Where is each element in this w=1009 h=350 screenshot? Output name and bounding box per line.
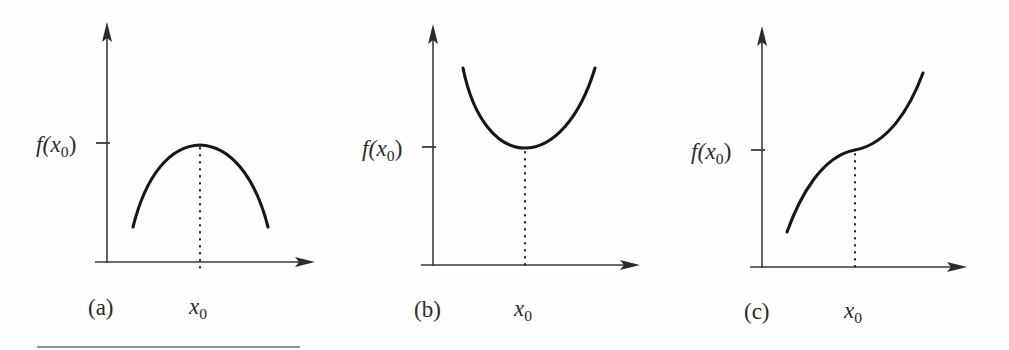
panel-b-x-label-head: x	[514, 296, 524, 321]
panel-c-graphics	[750, 26, 967, 272]
panel-b-letter: (b)	[414, 298, 441, 321]
panel-a-y-label-sub: 0	[61, 143, 69, 160]
panel-c-x-label-head: x	[844, 298, 854, 323]
panel-c-x-axis-label: x0	[844, 299, 862, 326]
panel-c-y-label-sub: 0	[716, 150, 724, 167]
panel-b-y-axis-label: f(x0)	[362, 137, 403, 164]
panel-a-letter: (a)	[88, 296, 114, 319]
panel-a-x-label-sub: 0	[199, 305, 207, 322]
panel-a-curve	[133, 145, 268, 227]
panel-c-y-label-tail: )	[724, 139, 732, 164]
panel-a-graphics	[95, 22, 315, 268]
panel-c-curve	[787, 73, 923, 232]
panel-a-x-axis-label: x0	[189, 295, 207, 322]
panel-b-y-label-tail: )	[395, 136, 403, 161]
panel-c-y-axis-label: f(x0)	[691, 140, 732, 167]
panel-a-y-label-tail: )	[69, 132, 77, 157]
figure-canvas	[0, 0, 1009, 350]
panel-a-x-label-head: x	[189, 294, 199, 319]
panel-b-x-axis-label: x0	[514, 297, 532, 324]
panel-c-letter: (c)	[744, 300, 770, 323]
panel-b-y-label-sub: 0	[387, 147, 395, 164]
panel-b-curve	[463, 68, 595, 148]
panel-c-x-label-sub: 0	[854, 309, 862, 326]
panel-c-y-label-head: f(x	[691, 139, 716, 164]
panel-b-graphics	[421, 24, 640, 270]
panel-a-y-axis-label: f(x0)	[36, 133, 77, 160]
figure-root: f(x0) x0 (a) f(x0) x0 (b) f(x0) x0 (c)	[0, 0, 1009, 350]
panel-b-y-label-head: f(x	[362, 136, 387, 161]
panel-a-y-label-head: f(x	[36, 132, 61, 157]
panel-b-x-label-sub: 0	[524, 307, 532, 324]
